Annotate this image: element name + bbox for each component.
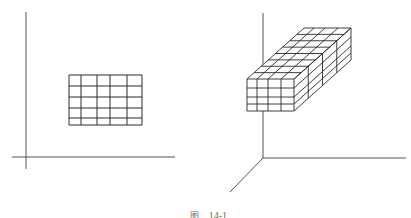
figure-caption: 图14-1	[184, 199, 227, 218]
left-axes	[12, 12, 175, 169]
left-2d-grid	[69, 75, 142, 125]
caption-number: 14-1	[209, 210, 227, 218]
figure-diagram	[0, 0, 411, 218]
caption-prefix: 图	[190, 209, 199, 218]
y-axis-depth	[230, 158, 263, 192]
